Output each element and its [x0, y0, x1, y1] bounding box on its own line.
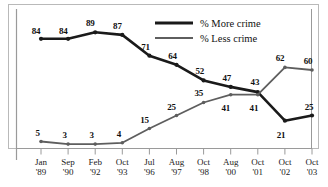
x-axis-label: Oct'03 [295, 157, 328, 177]
data-point-marker [120, 33, 124, 37]
data-label: 15 [140, 116, 149, 125]
data-point-marker [202, 78, 206, 82]
data-point-marker [148, 127, 152, 131]
data-label: 3 [63, 131, 67, 140]
x-axis-label-month: Oct [295, 157, 328, 167]
data-point-marker [66, 142, 70, 146]
data-label: 52 [195, 67, 204, 76]
data-point-marker [256, 93, 260, 97]
data-label: 3 [90, 131, 94, 140]
data-label: 35 [194, 89, 203, 98]
data-label: 25 [167, 103, 176, 112]
data-point-marker [66, 37, 70, 41]
legend-label-less-crime: % Less crime [200, 33, 257, 44]
data-label: 64 [168, 52, 177, 61]
x-axis-label-year: '03 [295, 167, 328, 177]
data-point-marker [310, 68, 314, 72]
data-label: 5 [35, 129, 39, 138]
data-label: 62 [276, 54, 285, 63]
data-point-marker [93, 142, 97, 146]
data-point-marker [229, 85, 233, 89]
data-point-marker [121, 141, 125, 145]
data-point-marker [283, 66, 287, 70]
data-label: 25 [305, 103, 314, 112]
data-point-marker [147, 54, 151, 58]
data-label: 89 [86, 19, 95, 28]
data-point-marker [93, 30, 97, 34]
data-point-marker [229, 93, 233, 97]
data-point-marker [175, 114, 179, 118]
data-label: 47 [223, 74, 232, 83]
data-point-marker [310, 113, 314, 117]
data-label: 43 [251, 78, 260, 87]
data-label: 71 [141, 43, 150, 52]
data-label: 4 [117, 130, 121, 139]
data-point-marker [202, 101, 206, 105]
data-point-marker [39, 37, 43, 41]
data-point-marker [174, 63, 178, 67]
data-label: 84 [59, 27, 68, 36]
data-label: 60 [304, 57, 313, 66]
crime-perception-line-chart: 8484898771645247432125533415253541416260… [0, 0, 328, 187]
data-point-marker [39, 140, 43, 144]
data-label: 41 [250, 104, 259, 113]
series-line-more-crime [41, 32, 312, 120]
x-axis-tick-marks [41, 149, 312, 155]
data-label: 87 [113, 22, 122, 31]
data-label: 84 [32, 27, 41, 36]
legend-label-more-crime: % More crime [200, 18, 261, 29]
data-label: 21 [277, 131, 286, 140]
legend-swatches [155, 23, 193, 38]
data-label: 41 [222, 104, 231, 113]
data-point-marker [283, 119, 287, 123]
series-layer [39, 30, 314, 146]
